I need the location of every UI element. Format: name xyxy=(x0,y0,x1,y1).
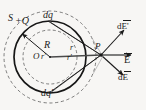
field-vector-dE-prime xyxy=(101,30,124,55)
label-field-point: P xyxy=(95,42,101,51)
label-distance-r-prime: r' xyxy=(67,54,72,62)
label-center: O xyxy=(33,52,40,61)
point-O-marker xyxy=(49,56,51,58)
label-center-radius-prime: r' xyxy=(41,53,46,61)
label-gaussian-surface: S xyxy=(8,13,13,23)
label-distance-r: r xyxy=(70,44,73,52)
label-field-lower: dE xyxy=(118,73,128,82)
label-total-charge: +Q xyxy=(15,16,29,26)
construction-line-lower xyxy=(93,56,103,74)
label-charge-element-lower: dq' xyxy=(41,88,53,98)
physics-figure: S +Q dq R O r' r r' P dE' E dE dq' xyxy=(0,0,146,110)
vector-overbar-dE-prime xyxy=(123,20,131,21)
vector-overbar-E xyxy=(124,53,132,54)
point-P-marker xyxy=(99,53,102,56)
label-field-upper: dE' xyxy=(117,22,129,31)
label-field-resultant: E xyxy=(124,55,130,65)
ray-dq-inner-to-p xyxy=(51,23,101,56)
label-charge-element-upper: dq xyxy=(43,10,53,20)
vector-overbar-dE xyxy=(124,71,131,72)
label-sphere-radius: R xyxy=(44,40,50,50)
axis-center-to-p xyxy=(50,55,101,57)
